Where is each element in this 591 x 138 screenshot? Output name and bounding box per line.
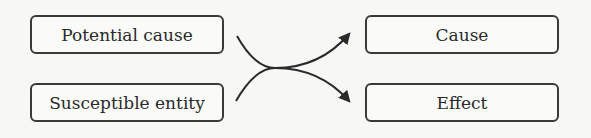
crossing-arrows bbox=[0, 0, 591, 138]
arrow-to-effect bbox=[237, 36, 349, 101]
arrow-to-cause bbox=[236, 34, 349, 101]
